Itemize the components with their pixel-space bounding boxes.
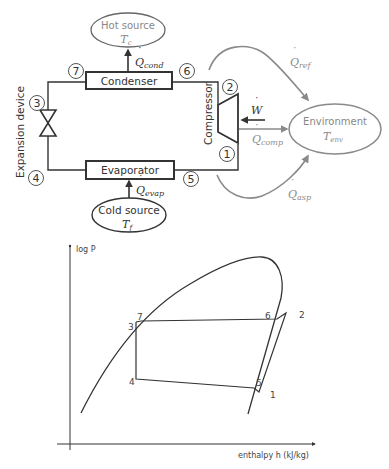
- condenser: Condenser: [86, 72, 172, 89]
- chart-point-7: 7: [137, 312, 143, 322]
- ph-chart: log P enthalpy h (kJ/kg) 7 3 4 5 1 2 6: [57, 245, 315, 460]
- svg-text:7: 7: [73, 65, 80, 78]
- expansion-valve-icon: [40, 110, 56, 136]
- q-comp-dot: ˙: [253, 123, 259, 136]
- x-axis-label: enthalpy h (kJ/kg): [238, 451, 309, 460]
- y-axis-label: log P: [76, 245, 96, 254]
- chart-point-1: 1: [270, 390, 276, 400]
- svg-text:1: 1: [224, 148, 231, 161]
- expansion-device-label: Expansion device: [14, 86, 26, 178]
- chart-point-4: 4: [129, 377, 135, 387]
- refrigeration-cycle-figure: Hot source Tc Qcond ˙ Condenser Evapor: [0, 0, 389, 469]
- evaporator-label: Evaporator: [101, 164, 160, 176]
- chart-point-6: 6: [265, 311, 271, 321]
- state-point-4: 4: [29, 171, 44, 186]
- chart-point-2: 2: [299, 310, 305, 320]
- q-asp-dot: ˙: [289, 178, 295, 191]
- state-point-5: 5: [184, 172, 199, 187]
- evaporator: Evaporator: [86, 161, 174, 179]
- cold-source-label: Cold source: [98, 204, 160, 216]
- svg-text:2: 2: [227, 81, 234, 94]
- work-dot: ˙: [253, 96, 259, 109]
- compressor-label: Compressor: [202, 81, 214, 145]
- q-cond-dot: ˙: [136, 46, 142, 59]
- state-point-2: 2: [223, 80, 238, 95]
- hot-source-label: Hot source: [101, 20, 155, 31]
- q-ref-dot: ˙: [291, 46, 297, 59]
- cycle-schematic: Hot source Tc Qcond ˙ Condenser Evapor: [14, 13, 381, 232]
- saturation-dome: [81, 257, 282, 414]
- state-point-7: 7: [69, 64, 84, 79]
- cycle-path: [136, 313, 286, 392]
- svg-text:4: 4: [33, 172, 40, 185]
- svg-text:3: 3: [34, 97, 41, 110]
- environment-label: Environment: [303, 116, 367, 127]
- state-point-6: 6: [180, 64, 195, 79]
- state-point-3: 3: [30, 96, 45, 111]
- q-evap-dot: ˙: [137, 174, 143, 187]
- hot-source-node: Hot source Tc: [91, 13, 165, 47]
- chart-point-5: 5: [256, 378, 262, 388]
- state-point-1: 1: [220, 147, 235, 162]
- svg-text:6: 6: [184, 65, 191, 78]
- environment-node: Environment Tenv: [289, 104, 381, 154]
- compressor-icon: [218, 93, 238, 143]
- svg-text:5: 5: [188, 173, 195, 186]
- condenser-label: Condenser: [101, 75, 158, 87]
- cold-source-node: Cold source Tf: [92, 198, 166, 232]
- chart-point-3: 3: [128, 322, 134, 332]
